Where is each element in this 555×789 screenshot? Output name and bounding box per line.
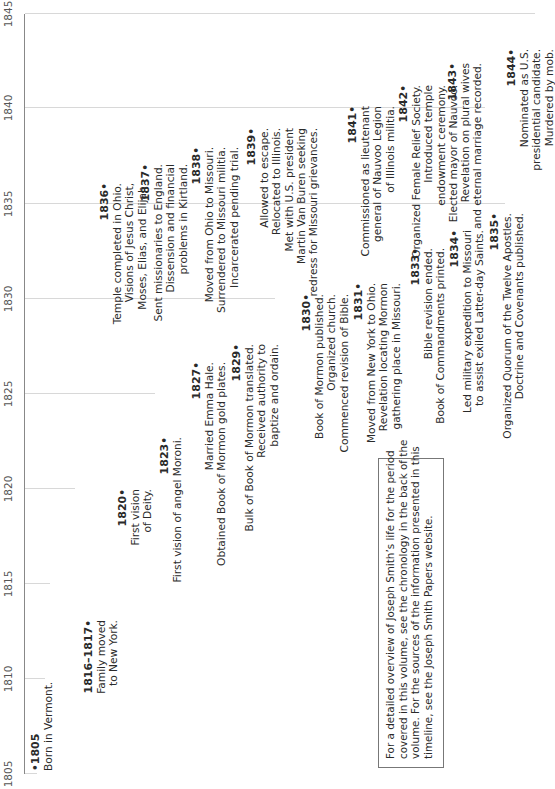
event-1827: 1827• Married Emma Hale. Obtained Book o…	[190, 362, 228, 566]
gridline-1815	[25, 583, 50, 584]
gridline-1820	[25, 488, 75, 489]
tick-1830: 1830	[2, 286, 14, 313]
event-1816-1817: 1816–1817• Family moved to New York.	[82, 620, 120, 694]
event-1833: 1833• Bible revision ended. Book of Comm…	[409, 248, 447, 424]
event-1823: 1823• First vision of angel Moroni.	[158, 437, 183, 583]
tick-1840: 1840	[2, 95, 14, 122]
tick-1825: 1825	[2, 381, 14, 408]
timeline-axis	[24, 14, 25, 774]
event-1830: 1830• Book of Mormon published. Organize…	[300, 294, 350, 452]
tick-1835: 1835	[2, 191, 14, 218]
event-1843: 1843• Revelation on plural wives and ete…	[446, 63, 484, 229]
gridline-1805	[25, 773, 37, 774]
event-1835: 1835• Organized Quorum of the Twelve Apo…	[488, 213, 526, 439]
gridline-1810	[25, 678, 45, 679]
event-1805: •1805 Born in Vermont.	[29, 682, 54, 771]
event-1829: 1829• Bulk of Book of Mormon translated.…	[230, 344, 280, 531]
tick-1815: 1815	[2, 571, 14, 598]
event-1838: 1838• Moved from Ohio to Missouri. Surre…	[190, 147, 240, 313]
gridline-1845	[25, 13, 535, 14]
event-1837: 1837• Sent missionaries to England. Diss…	[139, 164, 189, 322]
tick-1820: 1820	[2, 476, 14, 503]
event-1831: 1831• Moved from New York to Ohio. Revel…	[352, 283, 402, 443]
tick-1810: 1810	[2, 666, 14, 693]
event-1820: 1820• First vision of Deity.	[116, 489, 154, 546]
event-1844: 1844• Nominated as U.S. presidential can…	[505, 49, 555, 171]
tick-1845: 1845	[2, 1, 14, 28]
event-1841: 1841• Commissioned as lieutenant general…	[346, 106, 396, 257]
info-note-box: For a detailed overview of Joseph Smith’…	[378, 458, 444, 768]
tick-1805: 1805	[2, 761, 14, 788]
event-1839: 1839• Allowed to escape. Relocated to Il…	[245, 128, 319, 297]
gridline-1825	[25, 393, 155, 394]
